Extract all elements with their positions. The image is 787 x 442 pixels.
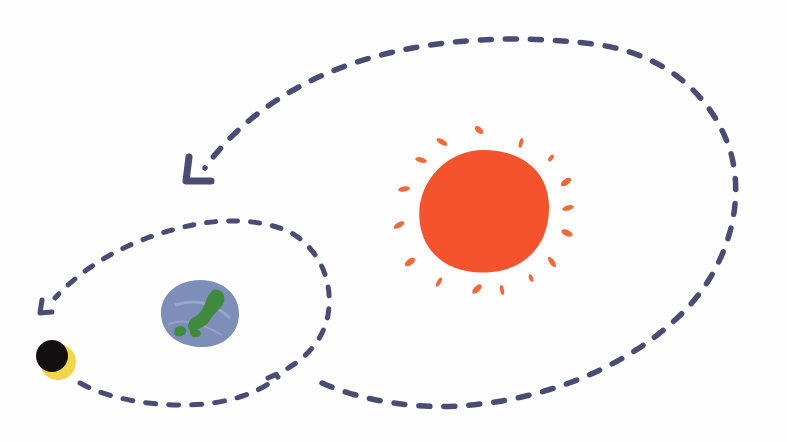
moon-crescent-icon: [36, 340, 76, 380]
arrow-head-icon: [40, 300, 52, 313]
moon-dark-side: [36, 340, 68, 372]
illustration-canvas: [0, 0, 787, 442]
sun-disc: [419, 150, 549, 273]
dashed-line-lower: [80, 377, 278, 405]
sun-icon: [393, 124, 575, 295]
earth-icon: [161, 280, 239, 347]
solar-system-illustration: Sun, Earth and Moon with dashed orbital …: [0, 0, 787, 442]
